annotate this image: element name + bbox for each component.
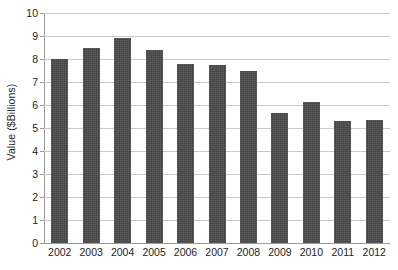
y-tick-label: 3 <box>32 169 38 180</box>
y-axis-title-label: Value ($Billions) <box>5 83 17 160</box>
plot-area <box>44 13 390 243</box>
x-tick-label: 2006 <box>174 247 197 259</box>
y-tick-label: 4 <box>32 146 38 157</box>
y-tick-mark <box>40 174 44 175</box>
x-tick-label: 2005 <box>142 247 165 259</box>
bar <box>177 64 194 243</box>
bar <box>51 59 68 243</box>
x-tick-label: 2009 <box>268 247 291 259</box>
x-tick-label: 2011 <box>332 247 355 259</box>
x-axis-tick-labels: 2002200320042005200620072008200920102011… <box>44 247 390 267</box>
y-axis-title: Value ($Billions) <box>0 0 22 243</box>
bar <box>146 50 163 243</box>
y-tick-mark <box>40 105 44 106</box>
bar <box>303 102 320 243</box>
y-tick-mark <box>40 36 44 37</box>
x-tick-label: 2008 <box>237 247 260 259</box>
x-tick-label: 2004 <box>111 247 134 259</box>
x-tick-label: 2002 <box>48 247 71 259</box>
x-tick-label: 2010 <box>300 247 323 259</box>
y-tick-label: 2 <box>32 192 38 203</box>
bars-group <box>44 13 390 243</box>
y-tick-label: 8 <box>32 54 38 65</box>
y-tick-mark <box>40 128 44 129</box>
y-tick-mark <box>40 59 44 60</box>
bar <box>366 120 383 243</box>
gridline <box>44 243 390 244</box>
y-tick-label: 9 <box>32 31 38 42</box>
bar <box>83 48 100 244</box>
bar <box>114 38 131 243</box>
y-tick-mark <box>40 197 44 198</box>
bar <box>240 71 257 244</box>
y-axis-tick-labels: 012345678910 <box>22 13 42 243</box>
y-tick-mark <box>40 82 44 83</box>
y-tick-mark <box>40 151 44 152</box>
bar-chart: Value ($Billions) 012345678910 200220032… <box>0 0 398 270</box>
y-tick-label: 6 <box>32 100 38 111</box>
y-tick-label: 7 <box>32 77 38 88</box>
y-tick-mark <box>40 13 44 14</box>
y-tick-mark <box>40 220 44 221</box>
y-tick-mark <box>40 243 44 244</box>
y-tick-label: 10 <box>26 8 38 19</box>
x-tick-label: 2007 <box>205 247 228 259</box>
y-tick-label: 5 <box>32 123 38 134</box>
y-tick-label: 0 <box>32 238 38 249</box>
x-tick-label: 2012 <box>363 247 386 259</box>
bar <box>271 113 288 243</box>
bar <box>209 65 226 243</box>
bar <box>334 121 351 243</box>
x-tick-label: 2003 <box>79 247 102 259</box>
y-tick-label: 1 <box>32 215 38 226</box>
